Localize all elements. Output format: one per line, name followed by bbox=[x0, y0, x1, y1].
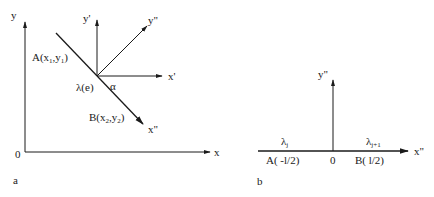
element-lambda-label: λ(e) bbox=[76, 81, 94, 94]
y-prime-label: y' bbox=[83, 12, 91, 24]
y-dblprime-label: y" bbox=[148, 14, 158, 26]
lambda-j-label: λj bbox=[281, 135, 288, 149]
global-y-label: y bbox=[11, 9, 17, 21]
panel-b-caption: b bbox=[257, 175, 263, 187]
x-prime-label: x' bbox=[168, 70, 176, 82]
panel-a: y x 0 y' x' y" x" A(x1,y1) B(x2,y2) λ(e)… bbox=[11, 9, 220, 186]
point-b-b-label: B( l/2) bbox=[355, 154, 384, 167]
angle-alpha-label: α bbox=[110, 80, 116, 92]
origin-label: 0 bbox=[15, 148, 21, 160]
global-x-label: x bbox=[214, 146, 220, 158]
panel-b: y" x" λj λj+1 A( -l/2) 0 B( l/2) b bbox=[257, 68, 424, 187]
lambda-j1-label: λj+1 bbox=[366, 135, 381, 149]
point-b-label: B(x2,y2) bbox=[89, 111, 125, 125]
origin-label-b: 0 bbox=[330, 154, 336, 166]
x-dblprime-label: x" bbox=[148, 123, 158, 135]
point-a-label: A(x1,y1) bbox=[32, 51, 68, 65]
y-dblprime-label-b: y" bbox=[318, 68, 328, 80]
diagram-canvas: y x 0 y' x' y" x" A(x1,y1) B(x2,y2) λ(e)… bbox=[0, 0, 434, 197]
x-dblprime-label-b: x" bbox=[414, 145, 424, 157]
local-y-dblprime-axis bbox=[97, 26, 147, 76]
point-a-b-label: A( -l/2) bbox=[266, 154, 300, 167]
panel-a-caption: a bbox=[13, 174, 18, 186]
